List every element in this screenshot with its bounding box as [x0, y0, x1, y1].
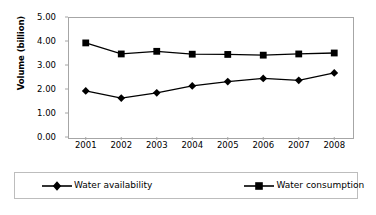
x-axis-tick-label: 2007: [279, 141, 319, 150]
plot-series-canvas: [68, 17, 352, 137]
square-marker-icon: [82, 40, 89, 47]
square-marker-icon: [153, 48, 160, 55]
square-marker-icon: [295, 51, 302, 58]
y-axis-tick-label: 2.00: [16, 85, 56, 94]
x-axis-tick-label: 2006: [243, 141, 283, 150]
y-axis-tick-label: 0.00: [16, 133, 56, 142]
diamond-marker-icon: [259, 75, 267, 83]
chart-legend: Water availability Water consumption: [14, 172, 358, 199]
y-axis-tick-label: 3.00: [16, 61, 56, 70]
square-marker-icon: [244, 180, 274, 192]
diamond-marker-icon: [188, 82, 196, 90]
y-axis-tick-label: 4.00: [16, 37, 56, 46]
square-marker-icon: [118, 51, 125, 58]
legend-label-water-availability: Water availability: [74, 181, 152, 190]
y-axis-tick-labels: 0.001.002.003.004.005.00: [16, 17, 60, 137]
diamond-marker-icon: [42, 180, 72, 192]
series-water-consumption: [82, 40, 337, 59]
legend-item-water-consumption[interactable]: Water consumption: [244, 180, 364, 192]
y-axis-tick-label: 5.00: [16, 13, 56, 22]
x-axis-tick-label: 2008: [314, 141, 354, 150]
line-chart-figure: Volume (billion) 0.001.002.003.004.005.0…: [0, 0, 376, 215]
diamond-marker-icon: [295, 76, 303, 84]
x-axis-tick-label: 2002: [101, 141, 141, 150]
x-axis-tick-label: 2001: [66, 141, 106, 150]
y-axis-tick-label: 1.00: [16, 109, 56, 118]
diamond-marker-icon: [330, 69, 338, 77]
diamond-marker-icon: [82, 87, 90, 95]
x-axis-tick-label: 2004: [172, 141, 212, 150]
diamond-marker-icon: [153, 89, 161, 97]
x-axis-tick-label: 2003: [137, 141, 177, 150]
diamond-marker-icon: [117, 94, 125, 102]
series-water-availability: [82, 69, 338, 102]
square-marker-icon: [189, 51, 196, 58]
legend-item-water-availability[interactable]: Water availability: [42, 180, 152, 192]
series-line: [86, 73, 335, 98]
square-marker-icon: [260, 52, 267, 59]
x-axis-tick-labels: 20012002200320042005200620072008: [68, 141, 352, 157]
diamond-marker-icon: [224, 78, 232, 86]
square-marker-icon: [224, 51, 231, 58]
square-marker-icon: [331, 50, 338, 57]
legend-label-water-consumption: Water consumption: [276, 181, 364, 190]
x-axis-tick-label: 2005: [208, 141, 248, 150]
